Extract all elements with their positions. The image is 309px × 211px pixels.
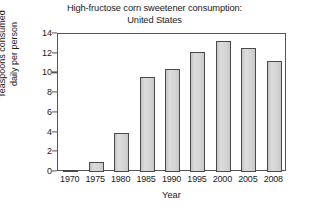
x-tick-label: 2008 xyxy=(264,174,283,184)
x-tick-label: 1970 xyxy=(60,174,79,184)
bar-1980 xyxy=(114,133,129,172)
bar-1975 xyxy=(89,162,104,172)
bar-1970 xyxy=(63,170,78,172)
bar-2008 xyxy=(267,61,282,172)
x-axis-tick-labels: 197019751980198519901995200020052008 xyxy=(57,174,286,186)
x-tick-label: 2005 xyxy=(238,174,257,184)
bar-1995 xyxy=(190,52,205,172)
bar-chart: High-fructose corn sweetener consumption… xyxy=(0,0,309,211)
bar-1990 xyxy=(165,69,180,173)
x-tick-label: 2000 xyxy=(213,174,232,184)
y-axis-title-line-2: daily per person xyxy=(9,0,21,115)
y-axis-title-line-1: Teaspoons consumed xyxy=(0,0,9,115)
x-tick-label: 1980 xyxy=(111,174,130,184)
x-tick-label: 1995 xyxy=(187,174,206,184)
y-tick-label: 12 xyxy=(42,48,52,58)
bar-2005 xyxy=(241,48,256,172)
y-axis-tick-labels: 02468101214 xyxy=(30,33,52,171)
bars-layer xyxy=(58,34,287,172)
y-axis-title: Teaspoons consumed daily per person xyxy=(0,0,21,115)
bar-2000 xyxy=(216,41,231,172)
bar-1985 xyxy=(140,77,155,172)
x-tick-label: 1975 xyxy=(86,174,105,184)
chart-title-line-2: United States xyxy=(0,15,309,27)
chart-title-line-1: High-fructose corn sweetener consumption… xyxy=(0,3,309,15)
x-tick-label: 1985 xyxy=(136,174,155,184)
y-tick-label: 10 xyxy=(42,67,52,77)
plot-area xyxy=(57,33,286,171)
x-axis-title: Year xyxy=(57,190,286,200)
x-tick-label: 1990 xyxy=(162,174,181,184)
y-tick-label: 14 xyxy=(42,28,52,38)
chart-title: High-fructose corn sweetener consumption… xyxy=(0,3,309,26)
